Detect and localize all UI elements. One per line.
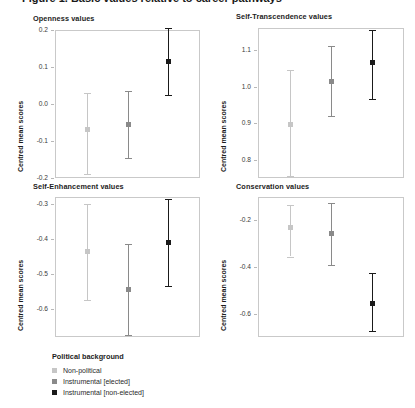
- legend: Political background Non-politicalInstru…: [52, 352, 144, 398]
- error-bar-cap-lower: [84, 300, 91, 301]
- y-tick-mark: [51, 178, 54, 179]
- error-bar-cap-lower: [125, 158, 132, 159]
- error-bar-cap-upper: [328, 46, 335, 47]
- y-tick-mark: [254, 267, 257, 268]
- panel-4: Conservation valuesCentred mean scores-0…: [205, 182, 415, 352]
- y-tick-mark: [51, 67, 54, 68]
- data-marker[interactable]: [126, 122, 131, 127]
- y-tick-mark: [254, 123, 257, 124]
- error-bar-line: [87, 93, 88, 174]
- error-bar-cap-upper: [328, 203, 335, 204]
- data-marker[interactable]: [370, 60, 375, 65]
- y-tick-label: -0.2: [225, 216, 251, 223]
- legend-marker-icon: [52, 390, 57, 395]
- legend-item[interactable]: Instrumental [elected]: [52, 376, 144, 387]
- error-bar-line: [290, 205, 291, 256]
- data-marker[interactable]: [329, 231, 334, 236]
- error-bar-cap-upper: [84, 93, 91, 94]
- error-bar-cap-lower: [84, 174, 91, 175]
- y-tick-mark: [51, 104, 54, 105]
- y-tick-mark: [254, 160, 257, 161]
- error-bar-cap-lower: [369, 99, 376, 100]
- error-bar-cap-lower: [287, 257, 294, 258]
- panel-title: Self-Transcendence values: [236, 12, 332, 21]
- y-tick-mark: [254, 220, 257, 221]
- y-tick-label: -0.2: [22, 174, 48, 181]
- y-tick-label: 0.8: [225, 156, 251, 163]
- data-marker[interactable]: [288, 225, 293, 230]
- y-tick-label: -0.1: [22, 137, 48, 144]
- y-tick-label: 1.1: [225, 46, 251, 53]
- y-tick-mark: [51, 30, 54, 31]
- y-tick-label: 0.1: [22, 63, 48, 70]
- y-tick-mark: [254, 314, 257, 315]
- legend-item-label: Non-political: [63, 367, 102, 374]
- y-tick-label: -0.6: [225, 310, 251, 317]
- figure-title: Figure 1. Basic values relative to caree…: [22, 0, 402, 4]
- error-bar-cap-upper: [369, 30, 376, 31]
- error-bar-cap-upper: [84, 204, 91, 205]
- data-marker[interactable]: [126, 287, 131, 292]
- error-bar-cap-lower: [328, 265, 335, 266]
- y-tick-mark: [51, 239, 54, 240]
- error-bar-cap-lower: [369, 331, 376, 332]
- y-tick-mark: [254, 50, 257, 51]
- y-tick-mark: [51, 309, 54, 310]
- legend-title: Political background: [52, 352, 144, 361]
- error-bar-cap-upper: [165, 199, 172, 200]
- data-marker[interactable]: [166, 240, 171, 245]
- legend-item-label: Instrumental [non-elected]: [63, 389, 144, 396]
- data-marker[interactable]: [370, 301, 375, 306]
- error-bar-cap-upper: [125, 91, 132, 92]
- legend-item[interactable]: Non-political: [52, 365, 144, 376]
- legend-marker-icon: [52, 379, 57, 384]
- y-tick-label: -0.6: [22, 305, 48, 312]
- error-bar-cap-upper: [125, 244, 132, 245]
- error-bar-cap-lower: [287, 176, 294, 177]
- error-bar-cap-lower: [125, 335, 132, 336]
- legend-marker-icon: [52, 368, 57, 373]
- y-axis-label: Centred mean scores: [220, 260, 227, 331]
- data-marker[interactable]: [85, 249, 90, 254]
- y-tick-label: -0.5: [22, 270, 48, 277]
- y-tick-mark: [51, 204, 54, 205]
- data-marker[interactable]: [288, 122, 293, 127]
- figure-container: Figure 1. Basic values relative to caree…: [0, 0, 415, 408]
- panel-title: Conservation values: [236, 182, 309, 191]
- y-tick-label: 0.2: [22, 26, 48, 33]
- y-tick-mark: [254, 87, 257, 88]
- panel-2: Self-Transcendence valuesCentred mean sc…: [205, 12, 415, 182]
- y-tick-mark: [51, 274, 54, 275]
- error-bar-cap-lower: [165, 95, 172, 96]
- error-bar-cap-lower: [328, 116, 335, 117]
- data-marker[interactable]: [166, 59, 171, 64]
- error-bar-cap-upper: [287, 70, 294, 71]
- legend-entries: Non-politicalInstrumental [elected]Instr…: [52, 365, 144, 398]
- panel-title: Openness values: [33, 14, 95, 23]
- y-tick-mark: [51, 141, 54, 142]
- y-tick-label: -0.4: [225, 263, 251, 270]
- error-bar-cap-upper: [287, 205, 294, 206]
- y-tick-label: -0.4: [22, 235, 48, 242]
- data-marker[interactable]: [85, 127, 90, 132]
- legend-item-label: Instrumental [elected]: [63, 378, 130, 385]
- legend-item[interactable]: Instrumental [non-elected]: [52, 387, 144, 398]
- y-tick-label: 0.0: [22, 100, 48, 107]
- panel-title: Self-Enhancement values: [33, 182, 124, 191]
- y-tick-label: -0.3: [22, 200, 48, 207]
- y-tick-label: 0.9: [225, 119, 251, 126]
- error-bar-cap-upper: [369, 273, 376, 274]
- error-bar-cap-lower: [165, 286, 172, 287]
- data-marker[interactable]: [329, 79, 334, 84]
- y-tick-label: 1.0: [225, 83, 251, 90]
- error-bar-cap-upper: [165, 28, 172, 29]
